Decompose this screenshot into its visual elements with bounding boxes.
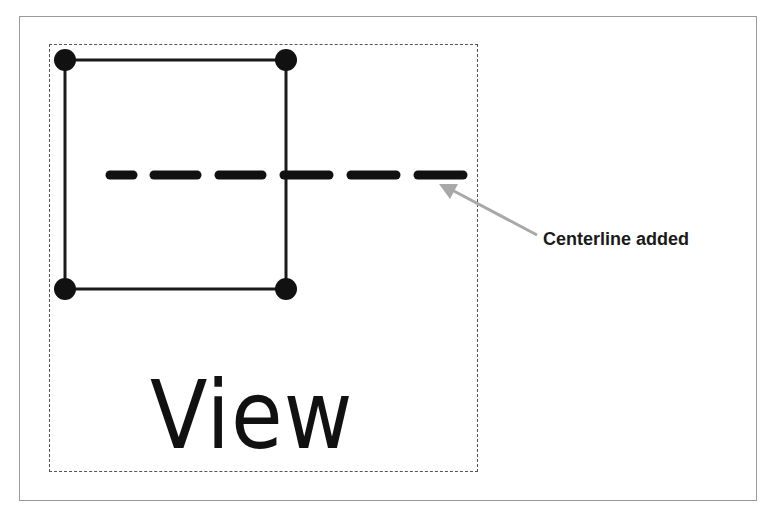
vertex-top-left[interactable] xyxy=(54,49,76,71)
sketch-drawing xyxy=(0,0,771,513)
vertex-bottom-left[interactable] xyxy=(54,278,76,300)
callout-label: Centerline added xyxy=(543,229,689,250)
vertex-bottom-right[interactable] xyxy=(275,278,297,300)
vertex-top-right[interactable] xyxy=(275,49,297,71)
callout-arrow-icon xyxy=(439,184,537,235)
view-label: View xyxy=(150,360,380,483)
